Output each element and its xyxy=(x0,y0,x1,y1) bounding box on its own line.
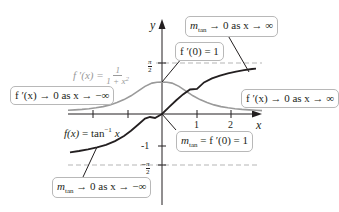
arctan-formula-label: f(x) = tan−1 x xyxy=(64,128,120,139)
leader-fprime-zero xyxy=(162,58,182,82)
y-tick-label-neg-pi-half: −π2 xyxy=(141,157,150,176)
leader-m-tan-neg-inf xyxy=(83,147,97,177)
callout-m-tan-zero: mtan = f ′(0) = 1 xyxy=(176,131,253,152)
x-axis-label: x xyxy=(256,119,261,131)
x-tick-label-2: 2 xyxy=(228,119,233,130)
callout-m-tan-pos-inf: mtan → 0 as x → ∞ xyxy=(185,16,278,37)
x-tick-label-1: 1 xyxy=(194,119,199,130)
y-tick-label-pi-half: π2 xyxy=(148,55,152,74)
y-axis-label: y xyxy=(150,19,155,31)
x-axis-arrow-icon xyxy=(252,111,262,118)
leader-m-tan-pos-inf xyxy=(226,32,249,72)
y-axis-arrow-icon xyxy=(159,19,166,29)
callout-m-tan-neg-inf: mtan → 0 as x → −∞ xyxy=(52,177,151,198)
leader-m-tan-zero xyxy=(162,114,176,130)
derivative-formula-label: f ′(x) = 11 + x2 xyxy=(73,65,129,87)
callout-fprime-pos-inf: f ′(x) → 0 as x → ∞ xyxy=(241,89,339,108)
callout-fprime-neg-inf: f ′(x) → 0 as x → −∞ xyxy=(10,86,114,105)
y-tick-label-neg1: -1 xyxy=(141,140,149,151)
callout-fprime-zero: f ′(0) = 1 xyxy=(175,42,224,61)
